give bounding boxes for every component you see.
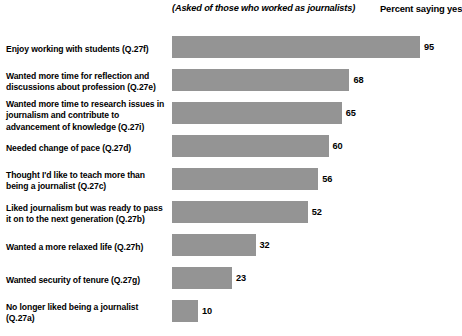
bar-track: 10 (172, 300, 442, 322)
bar-row: Liked journalism but was ready to pass i… (0, 198, 442, 231)
bar-track: 60 (172, 135, 442, 157)
bar-value-label: 65 (346, 108, 356, 118)
bar (172, 201, 308, 223)
bar (172, 135, 329, 157)
bar-track: 23 (172, 267, 442, 289)
bar-row: Wanted more time to research issues in j… (0, 99, 442, 132)
bar-value-label: 32 (260, 240, 270, 250)
bar (172, 102, 342, 124)
bar-row: Enjoy working with students (Q.27f)95 (0, 33, 442, 66)
bar-row: Wanted a more relaxed life (Q.27h)32 (0, 231, 442, 264)
bar-category-label: Wanted more time to research issues in j… (6, 98, 168, 133)
bar-value-label: 68 (353, 75, 363, 85)
chart-value-axis-label: Percent saying yes (380, 3, 462, 14)
bar-row: Needed change of pace (Q.27d)60 (0, 132, 442, 165)
bar-track: 68 (172, 69, 442, 91)
bar (172, 234, 256, 256)
bar-category-label: Liked journalism but was ready to pass i… (6, 203, 168, 226)
bar-row: Wanted more time for reflection and disc… (0, 66, 442, 99)
bar-value-label: 56 (322, 174, 332, 184)
bar-category-label: No longer liked being a journalist (Q.27… (6, 302, 168, 325)
bar (172, 36, 420, 58)
bar-rows: Enjoy working with students (Q.27f)95Wan… (0, 33, 442, 330)
chart-subtitle: (Asked of those who worked as journalist… (172, 3, 355, 13)
bar-value-label: 52 (312, 207, 322, 217)
bar-row: No longer liked being a journalist (Q.27… (0, 297, 442, 330)
bar-track: 52 (172, 201, 442, 223)
bar-value-label: 60 (333, 141, 343, 151)
bar-row: Thought I'd like to teach more than bein… (0, 165, 442, 198)
bar (172, 69, 349, 91)
bar-track: 32 (172, 234, 442, 256)
bar-track: 56 (172, 168, 442, 190)
bar-category-label: Enjoy working with students (Q.27f) (6, 44, 168, 56)
bar-value-label: 23 (236, 273, 246, 283)
chart-header: (Asked of those who worked as journalist… (172, 3, 442, 19)
bar-value-label: 10 (202, 306, 212, 316)
bar-track: 65 (172, 102, 442, 124)
bar-category-label: Wanted security of tenure (Q.27g) (6, 275, 168, 287)
bar-category-label: Needed change of pace (Q.27d) (6, 143, 168, 155)
bar-row: Wanted security of tenure (Q.27g)23 (0, 264, 442, 297)
bar (172, 168, 318, 190)
bar-category-label: Wanted a more relaxed life (Q.27h) (6, 242, 168, 254)
bar-track: 95 (172, 36, 442, 58)
bar-value-label: 95 (424, 42, 434, 52)
bar-category-label: Thought I'd like to teach more than bein… (6, 170, 168, 193)
bar (172, 300, 198, 322)
bar-category-label: Wanted more time for reflection and disc… (6, 71, 168, 94)
bar (172, 267, 232, 289)
